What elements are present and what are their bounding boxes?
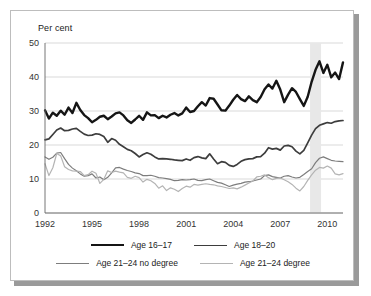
chart-card: Per cent 01020304050 1992199519982001200… bbox=[10, 10, 354, 281]
y-tick-label: 40 bbox=[29, 72, 39, 82]
x-tick-label: 2001 bbox=[176, 219, 196, 229]
legend-label: Age 18–20 bbox=[234, 240, 275, 250]
y-tick-labels-group: 01020304050 bbox=[29, 38, 39, 218]
legend-swatch-line-icon bbox=[91, 244, 124, 246]
gridlines-group bbox=[45, 43, 343, 213]
legend-swatch-line-icon bbox=[200, 263, 233, 264]
legend-label: Age 21–24 no degree bbox=[96, 258, 178, 268]
y-tick-label: 50 bbox=[29, 38, 39, 48]
x-tick-labels-group: 1992199519982001200420072010 bbox=[35, 219, 337, 229]
series-group bbox=[45, 61, 343, 191]
series-line-0 bbox=[45, 61, 343, 123]
legend-item[interactable]: Age 21–24 degree bbox=[200, 258, 310, 268]
y-tick-label: 0 bbox=[34, 208, 39, 218]
y-tick-label: 20 bbox=[29, 140, 39, 150]
x-tick-label: 2010 bbox=[317, 219, 337, 229]
y-tick-label: 30 bbox=[29, 106, 39, 116]
x-tick-label: 1995 bbox=[82, 219, 102, 229]
legend-item[interactable]: Age 21–24 no degree bbox=[56, 258, 178, 268]
x-tick-label: 2007 bbox=[270, 219, 290, 229]
figure-root: Per cent 01020304050 1992199519982001200… bbox=[0, 0, 371, 296]
x-tick-label: 1998 bbox=[129, 219, 149, 229]
series-line-3 bbox=[45, 154, 343, 192]
legend-row-1: Age 21–24 no degreeAge 21–24 degree bbox=[11, 254, 355, 272]
legend-swatch-line-icon bbox=[56, 263, 89, 264]
legend-label: Age 21–24 degree bbox=[240, 258, 310, 268]
legend-row-0: Age 16–17Age 18–20 bbox=[11, 236, 355, 254]
series-line-1 bbox=[45, 121, 343, 167]
axes-group bbox=[45, 43, 343, 213]
legend-swatch-line-icon bbox=[194, 245, 227, 246]
y-tick-label: 10 bbox=[29, 174, 39, 184]
chart-legend: Age 16–17Age 18–20Age 21–24 no degreeAge… bbox=[11, 236, 355, 272]
x-tick-label: 2004 bbox=[223, 219, 243, 229]
legend-label: Age 16–17 bbox=[131, 240, 172, 250]
legend-item[interactable]: Age 16–17 bbox=[91, 240, 172, 250]
x-tick-label: 1992 bbox=[35, 219, 55, 229]
legend-item[interactable]: Age 18–20 bbox=[194, 240, 275, 250]
